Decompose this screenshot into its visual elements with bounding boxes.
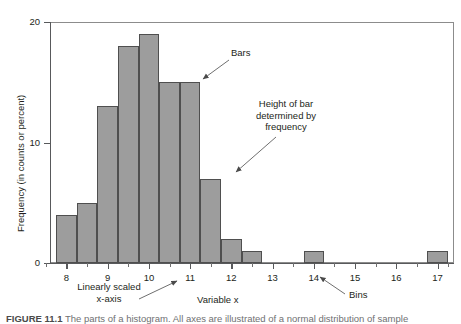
x-minor-tick <box>376 263 377 267</box>
x-tick-label: 17 <box>426 273 450 283</box>
annotation-height-of-bar: Height of bar determined by frequency <box>236 98 336 133</box>
x-minor-tick <box>252 263 253 267</box>
x-minor-tick <box>448 263 449 267</box>
annotation-bars: Bars <box>231 47 251 59</box>
y-tick-label-20: 20 <box>20 17 40 27</box>
x-tick <box>438 263 439 269</box>
histogram-bar <box>304 251 325 263</box>
annotation-linear-axis: Linearly scaled x-axis <box>63 281 155 304</box>
y-tick-10 <box>44 143 50 144</box>
histogram-bar <box>139 34 160 263</box>
x-minor-tick <box>334 263 335 267</box>
x-tick-label: 16 <box>384 273 408 283</box>
x-tick <box>355 263 356 269</box>
y-axis-line <box>50 22 51 264</box>
histogram-bar <box>242 251 263 263</box>
x-axis-title: Variable x <box>197 295 239 305</box>
y-tick-label-0: 0 <box>20 258 40 268</box>
x-tick-label: 11 <box>178 273 202 283</box>
x-tick-label: 15 <box>343 273 367 283</box>
histogram-bar <box>77 203 98 263</box>
y-tick-20 <box>44 22 50 23</box>
histogram-bar <box>56 215 77 263</box>
x-tick-label: 13 <box>261 273 285 283</box>
x-tick-label: 12 <box>219 273 243 283</box>
x-tick-label: 14 <box>302 273 326 283</box>
x-tick <box>396 263 397 269</box>
x-tick <box>149 263 150 269</box>
x-minor-tick <box>293 263 294 267</box>
x-tick <box>190 263 191 269</box>
histogram-bar <box>200 179 221 263</box>
x-tick <box>66 263 67 269</box>
histogram-bar <box>118 46 139 263</box>
annotation-bins: Bins <box>349 289 367 301</box>
histogram-bar <box>221 239 242 263</box>
x-minor-tick <box>46 263 47 267</box>
figure-caption-label: FIGURE 11.1 <box>6 313 63 324</box>
histogram-bar <box>97 106 118 263</box>
x-minor-tick <box>87 263 88 267</box>
histogram-figure: 20 10 0 Frequency (in counts or percent)… <box>0 0 461 324</box>
histogram-bar <box>180 82 201 263</box>
x-minor-tick <box>417 263 418 267</box>
x-minor-tick <box>170 263 171 267</box>
x-tick <box>273 263 274 269</box>
x-minor-tick <box>128 263 129 267</box>
histogram-bar <box>427 251 448 263</box>
y-axis-title: Frequency (in counts or percent) <box>16 95 26 232</box>
figure-caption-text: The parts of a histogram. All axes are i… <box>65 313 408 324</box>
histogram-bar <box>159 82 180 263</box>
x-minor-tick <box>211 263 212 267</box>
x-tick <box>314 263 315 269</box>
x-tick <box>108 263 109 269</box>
x-tick <box>231 263 232 269</box>
figure-caption: FIGURE 11.1 The parts of a histogram. Al… <box>6 313 456 324</box>
